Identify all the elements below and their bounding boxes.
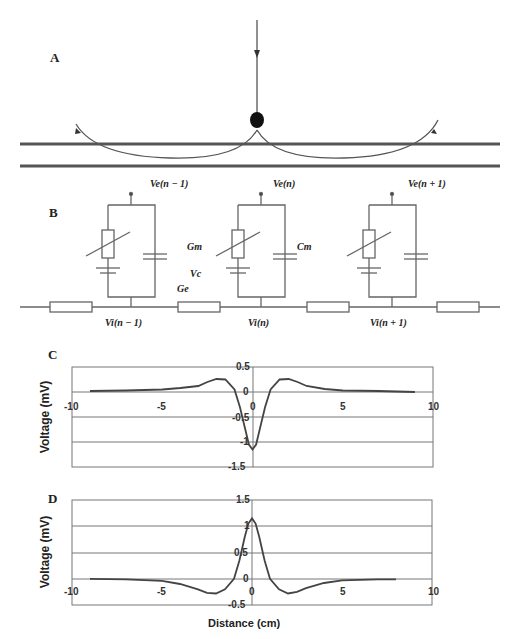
chart-d-ytick: 1.5: [236, 494, 250, 505]
panel-d-label: D: [48, 491, 57, 507]
chart-c-xtick: 10: [428, 401, 439, 412]
chart-c-xtick: 5: [340, 401, 346, 412]
chart-d-ylabel: Voltage (mV): [38, 512, 52, 592]
chart-d-xtick: 10: [428, 586, 439, 597]
chart-d-ytick: 0.5: [234, 547, 248, 558]
chart-d-xtick: -10: [64, 586, 78, 597]
chart-c-ytick: -0.5: [232, 412, 249, 423]
chart-d-xtick: 0: [249, 586, 255, 597]
chart-c-ytick: -1.5: [228, 461, 245, 472]
chart-c-xtick: 0: [250, 401, 256, 412]
chart-d-ytick: -0.5: [228, 599, 245, 610]
chart-c-ytick: 0: [243, 386, 249, 397]
chart-c-xtick: -5: [157, 401, 166, 412]
chart-c-ytick: 0.5: [236, 361, 250, 372]
chart-d-ytick: 1: [244, 520, 250, 531]
chart-c-xtick: -10: [64, 401, 78, 412]
chart-c-curve: [90, 379, 415, 450]
chart-c-ytick: -1: [240, 436, 249, 447]
chart-d-ytick: 0: [243, 573, 249, 584]
chart-c-plot: [0, 0, 515, 639]
chart-d-xtick: 5: [340, 586, 346, 597]
chart-d-xlabel: Distance (cm): [208, 617, 280, 629]
chart-d-xtick: -5: [157, 586, 166, 597]
